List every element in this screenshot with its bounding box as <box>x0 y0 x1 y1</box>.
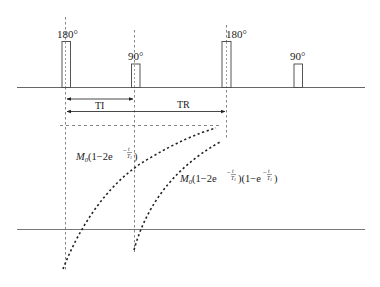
formula-second: M0(1−2e − t T1 )(1−e − t T1 ) <box>179 168 278 185</box>
svg-text:T1: T1 <box>127 153 132 160</box>
svg-text:M0(1−2e: M0(1−2e <box>179 173 217 185</box>
pulse-label-180-second: 180° <box>226 28 247 40</box>
pulse-90-first <box>132 64 141 88</box>
svg-text:T1: T1 <box>231 175 236 182</box>
svg-text:): ) <box>274 173 278 185</box>
pulse-sequence-diagram: 180° 90° 180° 90° TI TR M0(1−2e − t T1 )… <box>0 0 380 287</box>
svg-text:t: t <box>128 146 130 152</box>
pulse-180-first <box>62 42 71 88</box>
recovery-curve-second <box>134 142 220 250</box>
pulse-180-second <box>222 42 231 88</box>
pulse-label-180-first: 180° <box>57 28 78 40</box>
vertical-guides <box>66 17 227 272</box>
pulse-label-90-second: 90° <box>290 50 305 62</box>
svg-text:): ) <box>134 151 138 163</box>
formula-first: M0(1−2e − t T1 ) <box>75 146 138 163</box>
svg-text:)(1−e: )(1−e <box>238 173 261 185</box>
pulse-90-second <box>294 64 303 88</box>
svg-text:M0(1−2e: M0(1−2e <box>75 151 113 163</box>
tr-label: TR <box>177 99 190 110</box>
svg-text:t: t <box>232 168 234 174</box>
rf-pulses <box>62 42 303 88</box>
recovery-curve-first <box>63 128 216 269</box>
ti-label: TI <box>95 100 104 111</box>
svg-text:t: t <box>268 168 270 174</box>
pulse-label-90-first: 90° <box>128 50 143 62</box>
svg-text:T1: T1 <box>267 175 272 182</box>
